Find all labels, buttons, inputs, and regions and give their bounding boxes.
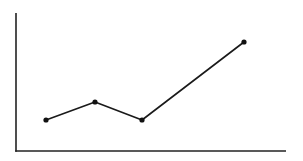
data-line (46, 42, 244, 120)
data-point-marker (139, 117, 144, 122)
line-chart (0, 0, 303, 161)
data-point-marker (92, 99, 97, 104)
data-point-marker (241, 39, 246, 44)
data-point-marker (43, 117, 48, 122)
